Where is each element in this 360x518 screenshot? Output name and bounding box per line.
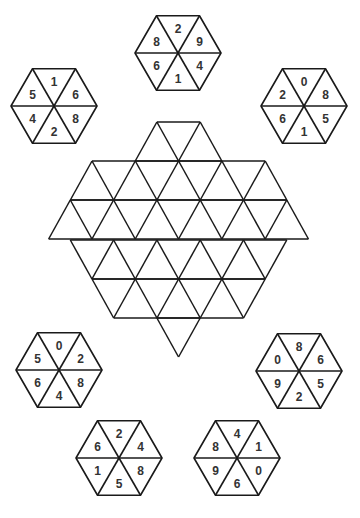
hex-digit-lower-right: 5 bbox=[317, 377, 324, 391]
hex-digit-upper-right: 6 bbox=[72, 88, 79, 102]
hexagon-piece-bottom-center-left[interactable]: 248516 bbox=[76, 421, 162, 495]
hex-digit-upper-right: 2 bbox=[77, 352, 84, 366]
hex-digit-top: 2 bbox=[116, 427, 123, 441]
hex-digit-lower-left: 6 bbox=[279, 112, 286, 126]
hex-digit-upper-left: 6 bbox=[94, 440, 101, 454]
hex-digit-top: 2 bbox=[175, 22, 182, 36]
hexagon-piece-bottom-center-right[interactable]: 410698 bbox=[194, 421, 280, 495]
hex-digit-lower-right: 8 bbox=[137, 464, 144, 478]
hex-digit-bottom: 5 bbox=[116, 477, 123, 491]
hexagon-puzzle: 2941681682450851620284658652902485164106… bbox=[0, 0, 360, 518]
hex-digit-upper-left: 8 bbox=[153, 35, 160, 49]
central-triangle-grid bbox=[49, 122, 309, 357]
hex-digit-lower-left: 6 bbox=[153, 59, 160, 73]
hex-digit-lower-left: 1 bbox=[94, 464, 101, 478]
hex-digit-top: 4 bbox=[234, 427, 241, 441]
hex-digit-upper-right: 8 bbox=[322, 88, 329, 102]
hex-digit-lower-right: 0 bbox=[255, 464, 262, 478]
hex-digit-bottom: 4 bbox=[56, 389, 63, 403]
hex-digit-top: 0 bbox=[301, 75, 308, 89]
hex-digit-upper-left: 5 bbox=[34, 352, 41, 366]
hexagon-piece-top-right[interactable]: 085162 bbox=[261, 69, 347, 143]
hex-digit-lower-right: 8 bbox=[77, 376, 84, 390]
hex-digit-bottom: 2 bbox=[296, 390, 303, 404]
hex-digit-top: 8 bbox=[296, 340, 303, 354]
hex-digit-lower-left: 4 bbox=[29, 112, 36, 126]
hex-digit-upper-left: 2 bbox=[279, 88, 286, 102]
hex-digit-upper-right: 4 bbox=[137, 440, 144, 454]
hexagon-piece-top-left[interactable]: 168245 bbox=[11, 69, 97, 143]
hex-digit-top: 0 bbox=[56, 339, 63, 353]
hex-digit-lower-right: 5 bbox=[322, 112, 329, 126]
hex-digit-bottom: 1 bbox=[301, 125, 308, 139]
hex-digit-upper-right: 9 bbox=[196, 35, 203, 49]
hex-digit-upper-left: 0 bbox=[274, 353, 281, 367]
hex-digit-upper-right: 6 bbox=[317, 353, 324, 367]
hex-digit-top: 1 bbox=[51, 75, 58, 89]
hex-digit-lower-right: 8 bbox=[72, 112, 79, 126]
hex-digit-lower-left: 9 bbox=[274, 377, 281, 391]
hex-digit-lower-right: 4 bbox=[196, 59, 203, 73]
hexagon-piece-bottom-right[interactable]: 865290 bbox=[256, 334, 342, 408]
hex-digit-bottom: 2 bbox=[51, 125, 58, 139]
hex-digit-upper-left: 5 bbox=[29, 88, 36, 102]
hex-digit-upper-left: 8 bbox=[212, 440, 219, 454]
grid-cell-down[interactable] bbox=[157, 318, 200, 357]
hexagon-piece-top[interactable]: 294168 bbox=[135, 16, 221, 90]
hexagon-piece-bottom-left[interactable]: 028465 bbox=[16, 333, 102, 407]
hex-digit-lower-left: 6 bbox=[34, 376, 41, 390]
hex-digit-lower-left: 9 bbox=[212, 464, 219, 478]
hex-digit-bottom: 6 bbox=[234, 477, 241, 491]
hex-digit-bottom: 1 bbox=[175, 72, 182, 86]
hex-digit-upper-right: 1 bbox=[255, 440, 262, 454]
